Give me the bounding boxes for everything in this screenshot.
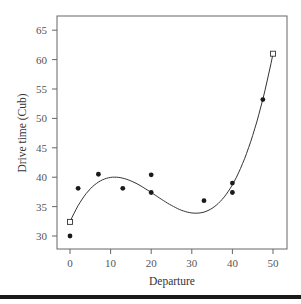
- y-tick-label: 30: [36, 230, 48, 242]
- x-axis: 01020304050: [67, 249, 279, 269]
- y-axis-label: Drive time (Cub): [16, 93, 29, 172]
- x-tick-label: 30: [186, 257, 198, 269]
- chart: 3035404550556065 01020304050 Departure D…: [0, 0, 301, 304]
- endpoint-marker: [68, 219, 73, 224]
- data-point: [68, 234, 73, 239]
- bottom-divider: [0, 295, 301, 299]
- data-point: [149, 190, 154, 195]
- x-axis-label: Departure: [149, 275, 195, 288]
- data-point: [149, 172, 154, 177]
- x-tick-label: 50: [268, 257, 280, 269]
- x-tick-label: 0: [67, 257, 73, 269]
- y-tick-label: 60: [36, 54, 48, 66]
- data-point: [202, 198, 207, 203]
- y-tick-label: 65: [36, 24, 48, 36]
- y-tick-label: 55: [36, 83, 48, 95]
- data-point: [76, 186, 81, 191]
- data-point: [96, 172, 101, 177]
- y-tick-label: 45: [36, 142, 48, 154]
- data-point: [230, 181, 235, 186]
- y-tick-label: 35: [36, 201, 48, 213]
- y-axis: 3035404550556065: [36, 24, 57, 242]
- y-tick-label: 50: [36, 112, 48, 124]
- data-point: [260, 97, 265, 102]
- data-points: [68, 51, 276, 238]
- data-point: [230, 190, 235, 195]
- x-tick-label: 40: [227, 257, 239, 269]
- x-tick-label: 10: [105, 257, 117, 269]
- y-tick-label: 40: [36, 171, 48, 183]
- endpoint-marker: [271, 51, 276, 56]
- plot-frame: [57, 16, 287, 249]
- data-point: [120, 186, 125, 191]
- x-tick-label: 20: [146, 257, 158, 269]
- fitted-curve: [70, 54, 273, 222]
